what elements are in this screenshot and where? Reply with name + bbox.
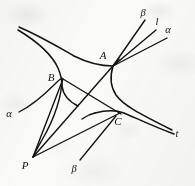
- label-point-B: B: [48, 71, 55, 83]
- conic-C-left-tail: [82, 113, 95, 119]
- ray-beta-to-C: [80, 116, 116, 160]
- segment-P-to-C: [33, 113, 120, 157]
- segment-P-to-A: [33, 59, 119, 157]
- label-alpha-top: α: [165, 24, 171, 35]
- label-point-P: P: [21, 159, 29, 171]
- label-point-C: C: [114, 115, 122, 127]
- label-point-A: A: [99, 49, 107, 61]
- label-t-right: t: [176, 128, 180, 139]
- tangent-alpha-curve: [19, 78, 62, 112]
- label-l-top: l: [156, 16, 159, 27]
- conic-lower-branch: [95, 111, 174, 134]
- label-alpha-left: α: [6, 108, 12, 119]
- figure-canvas: A B C P β l α α β t: [0, 0, 195, 186]
- ray-alpha-from-A: [113, 38, 167, 66]
- label-beta-bottom: β: [70, 163, 77, 174]
- geometry-figure: A B C P β l α α β t: [0, 0, 195, 186]
- label-beta-top: β: [139, 7, 146, 18]
